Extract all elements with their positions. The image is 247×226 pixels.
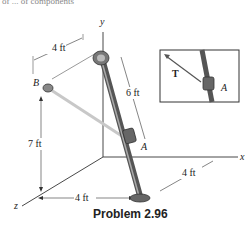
dim-6ft-label: 6 ft — [126, 87, 140, 98]
inset-A-label: A — [220, 82, 228, 93]
ext-line — [52, 52, 98, 79]
dim-7ft-label: 7 ft — [28, 138, 42, 149]
dim-arrow-icon — [38, 196, 43, 200]
x-axis-label: x — [239, 151, 245, 162]
diagram-canvas: of ... of components y x z 7 ft 4 ft 4 f… — [0, 0, 247, 226]
z-axis-label: z — [13, 200, 18, 211]
force-T-label: T — [172, 68, 179, 79]
point-A-label: A — [140, 141, 148, 152]
dim-bottom-z-label: 4 ft — [182, 167, 196, 178]
point-B-label: B — [33, 77, 39, 88]
dim-bottom-x-label: 4 ft — [75, 192, 89, 203]
header-fragment: of ... of components — [2, 0, 74, 6]
dim-top-label: 4 ft — [52, 42, 66, 53]
problem-caption: Problem 2.96 — [93, 207, 168, 221]
dim-arrow-icon — [39, 96, 43, 101]
inset-collar — [203, 77, 214, 90]
anchor-B — [43, 84, 53, 92]
base-mount — [130, 194, 150, 202]
y-axis-label: y — [99, 16, 105, 27]
dim-arrow-icon — [39, 187, 43, 192]
